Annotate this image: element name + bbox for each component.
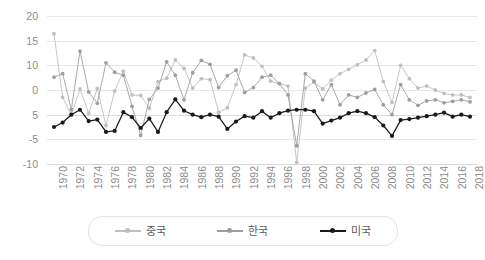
data-point xyxy=(121,73,125,77)
data-point xyxy=(165,60,169,64)
data-point xyxy=(69,113,73,117)
x-axis-tick-label: 1996 xyxy=(283,166,294,189)
legend-marker-icon xyxy=(217,226,243,236)
data-point xyxy=(338,116,342,120)
y-axis-tick-label: -10 xyxy=(23,159,38,170)
data-point xyxy=(277,111,281,115)
data-point xyxy=(52,75,56,79)
data-point xyxy=(425,99,429,103)
legend-item[interactable]: 한국 xyxy=(217,226,268,237)
data-point xyxy=(364,91,368,95)
data-point xyxy=(243,91,247,95)
data-point xyxy=(234,83,238,87)
data-point xyxy=(303,72,307,76)
data-point xyxy=(104,61,108,65)
data-point xyxy=(130,115,134,119)
chart-container: 20151005-5-10 19701972197419761978198019… xyxy=(0,0,485,260)
data-point xyxy=(416,116,420,120)
data-point xyxy=(286,84,290,88)
y-axis-tick-label: 5 xyxy=(32,109,38,120)
data-point xyxy=(321,87,325,91)
data-point xyxy=(364,111,368,115)
data-point xyxy=(312,109,316,113)
data-point xyxy=(78,87,82,91)
data-point xyxy=(321,98,325,102)
data-point xyxy=(269,116,273,120)
data-point xyxy=(442,101,446,105)
data-point xyxy=(87,111,91,115)
data-point xyxy=(104,124,108,128)
series-line xyxy=(54,34,470,163)
data-point xyxy=(373,49,377,53)
data-point xyxy=(95,87,99,91)
data-point xyxy=(147,97,151,101)
legend-marker-icon xyxy=(115,226,141,236)
series-layer xyxy=(47,16,477,164)
data-point xyxy=(260,75,264,79)
data-point xyxy=(78,108,82,112)
x-axis-tick-label: 2012 xyxy=(422,166,433,189)
data-point xyxy=(130,93,134,97)
x-axis-tick-label: 2006 xyxy=(370,166,381,189)
data-point xyxy=(61,72,65,76)
data-point xyxy=(52,32,56,36)
legend-label: 미국 xyxy=(351,226,371,237)
data-point xyxy=(390,134,394,138)
data-point xyxy=(451,93,455,97)
x-axis-tick-label: 1984 xyxy=(179,166,190,189)
x-axis-tick-label: 1974 xyxy=(93,166,104,189)
data-point xyxy=(139,126,143,130)
x-axis-tick-label: 1986 xyxy=(197,166,208,189)
x-axis-tick-label: 1982 xyxy=(162,166,173,189)
x-axis-tick-label: 2002 xyxy=(335,166,346,189)
data-point xyxy=(260,109,264,113)
data-point xyxy=(225,74,229,78)
x-axis-tick-label: 2004 xyxy=(353,166,364,189)
data-point xyxy=(182,98,186,102)
data-point xyxy=(147,117,151,121)
legend-item[interactable]: 미국 xyxy=(320,226,371,237)
data-point xyxy=(321,121,325,125)
data-point xyxy=(251,116,255,120)
data-point xyxy=(416,86,420,90)
data-point xyxy=(95,118,99,122)
legend-label: 중국 xyxy=(146,226,166,237)
data-point xyxy=(208,113,212,117)
data-point xyxy=(173,73,177,77)
legend-item[interactable]: 중국 xyxy=(115,226,166,237)
data-point xyxy=(295,108,299,112)
data-point xyxy=(407,98,411,102)
data-point xyxy=(451,99,455,103)
plot-area xyxy=(47,16,477,164)
data-point xyxy=(173,58,177,62)
x-axis-tick-label: 1990 xyxy=(231,166,242,189)
x-axis-tick-label: 1988 xyxy=(214,166,225,189)
data-point xyxy=(182,109,186,113)
data-point xyxy=(347,67,351,71)
data-point xyxy=(425,84,429,88)
x-axis-tick-label: 1994 xyxy=(266,166,277,189)
data-point xyxy=(87,119,91,123)
data-point xyxy=(208,78,212,82)
y-axis-tick-label: 20 xyxy=(26,11,38,22)
data-point xyxy=(113,70,117,74)
x-axis-line xyxy=(47,164,477,165)
data-point xyxy=(165,76,169,80)
x-axis-tick-label: 1998 xyxy=(301,166,312,189)
data-point xyxy=(364,58,368,62)
x-axis-tick-label: 1980 xyxy=(145,166,156,189)
data-point xyxy=(269,79,273,83)
data-point xyxy=(355,96,359,100)
data-point xyxy=(407,117,411,121)
data-point xyxy=(416,103,420,107)
data-point xyxy=(52,125,56,129)
data-point xyxy=(191,113,195,117)
x-axis-tick-label: 1976 xyxy=(110,166,121,189)
legend-marker-icon xyxy=(320,226,346,236)
data-point xyxy=(433,113,437,117)
x-axis-tick-label: 1978 xyxy=(127,166,138,189)
data-point xyxy=(381,123,385,127)
data-point xyxy=(121,110,125,114)
data-point xyxy=(199,115,203,119)
data-point xyxy=(286,109,290,113)
